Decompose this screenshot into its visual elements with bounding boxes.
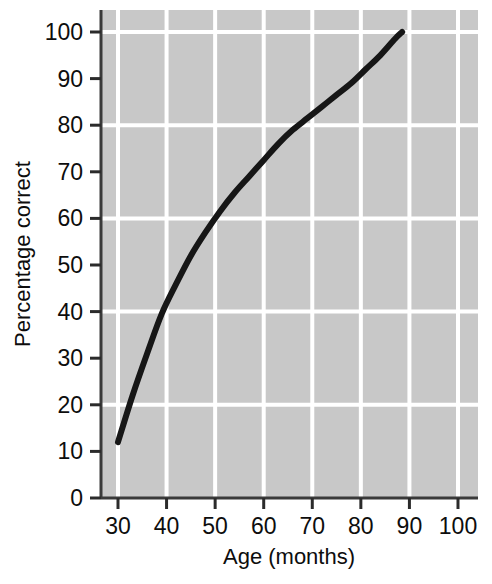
y-tick-label: 100 xyxy=(45,19,83,45)
y-tick-label: 10 xyxy=(57,438,83,464)
x-tick-label: 70 xyxy=(299,513,325,539)
x-tick-label: 30 xyxy=(105,513,131,539)
chart-figure: 30405060708090100 0102030405060708090100… xyxy=(0,0,492,584)
x-tick-label: 100 xyxy=(439,513,477,539)
y-tick-label: 20 xyxy=(57,392,83,418)
x-axis-title: Age (months) xyxy=(223,544,355,569)
x-tick-label: 60 xyxy=(251,513,277,539)
x-axis-tick-labels: 30405060708090100 xyxy=(105,513,477,539)
y-tick-label: 80 xyxy=(57,112,83,138)
x-tick-label: 90 xyxy=(397,513,423,539)
x-tick-label: 40 xyxy=(154,513,180,539)
y-axis-tick-labels: 0102030405060708090100 xyxy=(45,19,83,511)
y-tick-label: 60 xyxy=(57,205,83,231)
percentage-correct-line-chart: 30405060708090100 0102030405060708090100… xyxy=(0,0,492,584)
y-tick-label: 90 xyxy=(57,66,83,92)
x-axis-ticks xyxy=(118,498,458,509)
y-tick-label: 30 xyxy=(57,345,83,371)
y-tick-label: 70 xyxy=(57,159,83,185)
x-tick-label: 50 xyxy=(202,513,228,539)
x-tick-label: 80 xyxy=(348,513,374,539)
y-tick-label: 50 xyxy=(57,252,83,278)
plot-area-background xyxy=(101,10,478,498)
y-axis-title: Percentage correct xyxy=(10,161,35,347)
y-tick-label: 0 xyxy=(70,485,83,511)
y-tick-label: 40 xyxy=(57,299,83,325)
y-axis-ticks xyxy=(90,32,101,498)
